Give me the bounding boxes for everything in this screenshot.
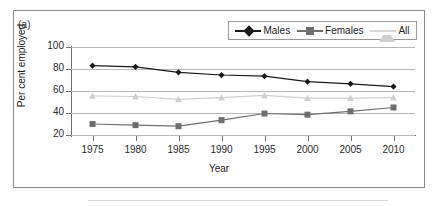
data-point-males-2000 (304, 79, 310, 85)
data-point-males-1995 (261, 73, 267, 79)
data-point-females-2000 (305, 112, 311, 118)
data-point-males-2005 (347, 81, 353, 87)
data-point-females-2010 (391, 105, 397, 111)
data-point-females-1995 (262, 111, 268, 117)
data-point-females-1990 (219, 117, 225, 123)
data-point-females-1975 (90, 121, 96, 127)
data-point-females-2005 (348, 108, 354, 114)
series-females (90, 105, 397, 130)
chart-series-layer (0, 0, 438, 206)
data-point-males-1975 (89, 63, 95, 69)
data-point-males-1990 (218, 72, 224, 78)
figure-panel-a: (a) Males Females All 20406 (0, 0, 438, 206)
x-axis-title: Year (0, 163, 438, 174)
series-males (89, 63, 396, 90)
series-all (89, 92, 397, 102)
data-point-males-1985 (175, 69, 181, 75)
data-point-females-1985 (176, 123, 182, 129)
data-point-females-1980 (133, 122, 139, 128)
y-axis-title: Per cent employed (16, 16, 27, 116)
data-point-males-1980 (132, 64, 138, 70)
data-point-males-2010 (390, 84, 396, 90)
